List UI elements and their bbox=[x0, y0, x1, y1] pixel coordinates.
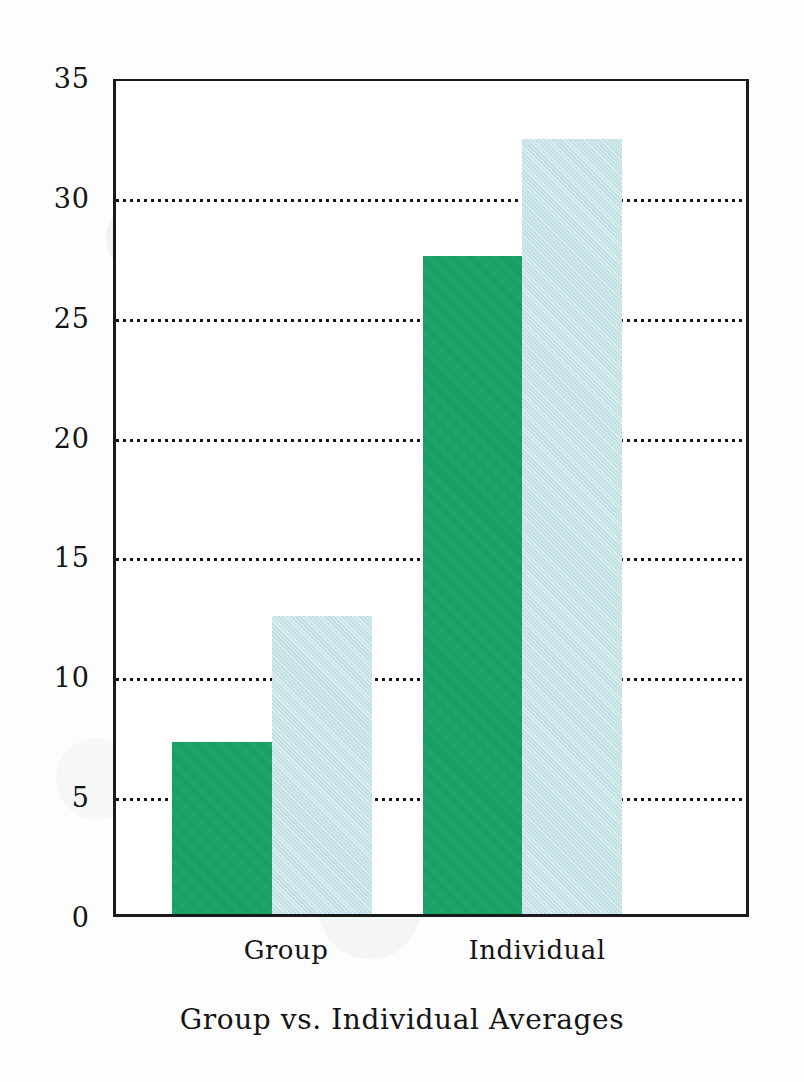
y-axis-tick-label-25: 25 bbox=[0, 305, 90, 332]
bar-group-light bbox=[272, 616, 372, 914]
x-axis-tick-label-group: Group bbox=[186, 937, 386, 963]
y-axis-tick-label-30: 30 bbox=[0, 185, 90, 212]
x-axis-tick-label-individual: Individual bbox=[437, 937, 637, 963]
y-axis-tick-label-5: 5 bbox=[0, 784, 90, 811]
bar-individual-dark bbox=[423, 256, 522, 914]
bar-individual-light bbox=[522, 139, 622, 914]
plot-area bbox=[113, 79, 749, 917]
y-axis-tick-label-10: 10 bbox=[0, 664, 90, 691]
bar-group-dark bbox=[172, 742, 272, 914]
y-axis-tick-label-20: 20 bbox=[0, 425, 90, 452]
chart-title: Group vs. Individual Averages bbox=[0, 1006, 804, 1034]
gridline-30 bbox=[116, 199, 746, 202]
bar-chart-figure: 35 30 25 20 15 10 5 0 Group Individual G… bbox=[0, 0, 804, 1082]
y-axis-tick-label-15: 15 bbox=[0, 544, 90, 571]
y-axis-tick-label-35: 35 bbox=[0, 65, 90, 92]
plot-inner bbox=[116, 81, 746, 914]
y-axis-tick-label-0: 0 bbox=[0, 904, 90, 931]
